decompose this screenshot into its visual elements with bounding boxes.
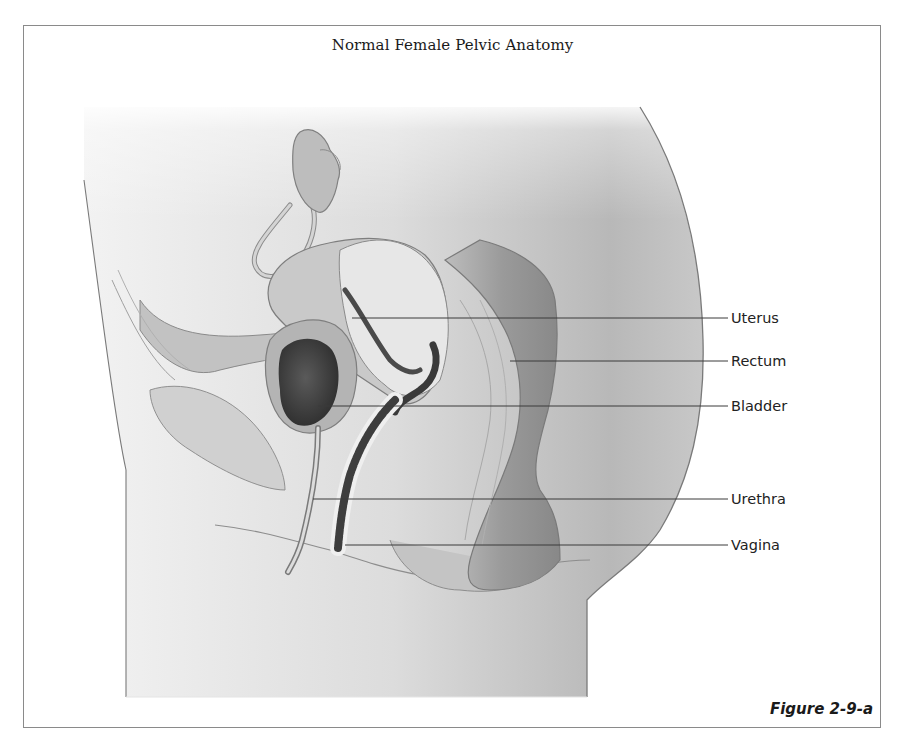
label-rectum: Rectum [731, 352, 786, 370]
bladder [265, 320, 356, 433]
label-urethra: Urethra [731, 490, 786, 508]
label-vagina: Vagina [731, 536, 780, 554]
label-uterus: Uterus [731, 309, 779, 327]
label-bladder: Bladder [731, 397, 787, 415]
pelvic-anatomy-illustration [0, 0, 905, 755]
figure-caption: Figure 2-9-a [770, 700, 873, 718]
